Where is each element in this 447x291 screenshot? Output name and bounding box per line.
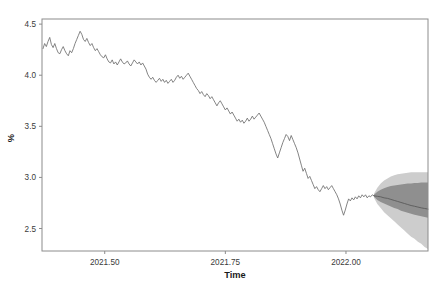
x-axis-ticks: 2021.502021.752022.00: [90, 251, 361, 267]
x-axis-title: Time: [224, 270, 246, 280]
y-tick-label: 3.0: [25, 173, 37, 182]
y-axis-ticks: 2.53.03.54.04.5: [25, 20, 42, 233]
x-tick-label: 2022.00: [331, 258, 361, 267]
chart-svg: 2.53.03.54.04.5 2021.502021.752022.00 Ti…: [0, 0, 447, 291]
x-tick-label: 2021.50: [90, 258, 120, 267]
y-tick-label: 3.5: [25, 122, 37, 131]
y-axis-title: %: [6, 133, 16, 142]
y-tick-label: 4.5: [25, 20, 37, 29]
forecast-chart: 2.53.03.54.04.5 2021.502021.752022.00 Ti…: [0, 0, 447, 291]
x-tick-label: 2021.75: [211, 258, 241, 267]
y-tick-label: 4.0: [25, 71, 37, 80]
y-tick-label: 2.5: [25, 225, 37, 234]
